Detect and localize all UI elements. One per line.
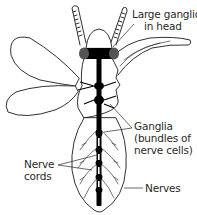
label-line: Nerve [24,158,54,170]
left-hindwing [6,86,78,116]
label-line: Ganglia [134,120,193,132]
head-outline [86,29,112,48]
right-antenna [110,7,127,45]
label-line: in head [132,20,197,32]
label-large-ganglion: Large ganglion in head [132,8,197,32]
label-nerve-cords: Nerve cords [24,158,54,182]
label-line: cords [24,170,54,182]
label-line: Large ganglion [132,8,197,20]
left-forewing [11,37,79,86]
large-ganglion-shape [79,48,119,60]
left-antenna [72,6,86,45]
label-line: nerve cells) [134,144,193,156]
label-nerves: Nerves [145,182,181,194]
label-ganglia: Ganglia (bundles of nerve cells) [134,120,193,156]
label-line: (bundles of [134,132,193,144]
right-appendage [112,37,191,75]
